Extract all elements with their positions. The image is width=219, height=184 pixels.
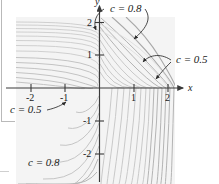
y-tick-label-2: 2	[87, 18, 92, 28]
y-tick-label-neg2: -2	[83, 149, 91, 159]
contour-label-c05-left: c = 0.5	[10, 104, 42, 115]
contour-label-c05-right: c = 0.5	[176, 54, 208, 65]
y-tick-label-1: 1	[87, 50, 92, 60]
contour-label-c08-bottom: c = 0.8	[28, 157, 60, 168]
x-tick-label-1: 1	[131, 93, 136, 103]
x-tick-label-neg1: -1	[60, 93, 68, 103]
x-tick-label-2: 2	[165, 93, 170, 103]
x-axis-label: x	[188, 83, 192, 93]
contour-plot-figure: -2 -1 1 2 2 1 -1 -2 x y c = 0.8 c = 0.5 …	[0, 0, 219, 184]
x-tick-label-neg2: -2	[26, 93, 34, 103]
y-tick-label-neg1: -1	[83, 116, 91, 126]
contour-label-c08-top: c = 0.8	[110, 3, 142, 14]
y-axis-label: y	[95, 0, 99, 7]
